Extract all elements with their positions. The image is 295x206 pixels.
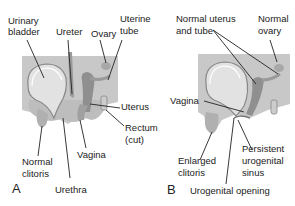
label-normal-uterus-tube-1: Normal uterus [176,13,236,24]
label-panel-b-vagina: Vagina [170,95,200,106]
label-uterus: Uterus [121,101,149,112]
label-normal-ovary-1: Normal [258,13,289,24]
panel-b-illustration [198,54,290,134]
label-uterine-tube-2: tube [120,25,139,36]
label-ureter: Ureter [56,26,82,37]
anatomy-diagram: Urinary bladder Ureter Ovary Uterine tub… [0,0,295,206]
label-uterine-tube-1: Uterine [120,13,151,24]
label-normal-ovary-2: ovary [258,25,281,36]
rectum-shape [101,96,107,110]
label-urogenital-opening: Urogenital opening [190,185,270,196]
label-rectum-2: (cut) [125,134,144,145]
label-rectum-1: Rectum [125,122,158,133]
label-persistent-sinus-1: Persistent [242,143,285,154]
label-vagina: Vagina [77,149,107,160]
enlarged-clitoris-shape [205,112,219,134]
label-normal-clitoris-2: clitoris [22,168,49,179]
label-urinary-bladder-1: Urinary [8,15,39,26]
panel-a-letter: A [12,181,21,196]
label-enlarged-clitoris-2: clitoris [178,167,205,178]
label-enlarged-clitoris-1: Enlarged [178,155,216,166]
label-persistent-sinus-2: urogenital [242,155,284,166]
label-persistent-sinus-3: sinus [242,167,264,178]
panel-b-rectum-shape [271,100,277,114]
label-normal-uterus-tube-2: and tube [176,25,213,36]
panel-b-letter: B [167,182,176,197]
label-urethra: Urethra [55,184,87,195]
label-urinary-bladder-2: bladder [8,26,40,37]
label-normal-clitoris-1: Normal [22,156,53,167]
normal-ovary-shape [274,64,284,72]
label-ovary: Ovary [91,28,117,39]
ovary-shape [101,62,111,70]
